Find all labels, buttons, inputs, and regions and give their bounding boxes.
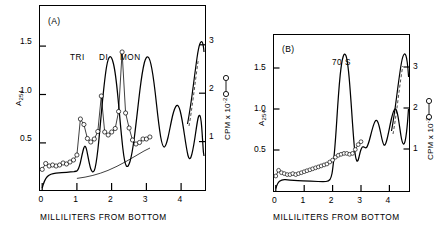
panel-a-annotation-tri: TRI [70, 53, 85, 62]
panel-b-ytick-right-label-2: 1 [413, 143, 418, 153]
panel-b-ytick-label-0: 1.5 [254, 62, 266, 72]
panel-a-xtick-label-1: 1 [73, 194, 78, 204]
panel-b-cpm-markers [274, 140, 363, 178]
panel-a-annotation-mon: MON [120, 53, 141, 62]
panel-b-ytick-label-1: 1.0 [254, 103, 266, 113]
panel-b-absorbance-trace-dashed-inner [393, 66, 403, 134]
panel-a-label: (A) [48, 16, 61, 26]
panel-b-absorbance-trace-secondary [392, 54, 409, 131]
panel-b-left-ticks [274, 68, 280, 150]
panel-a-plot-canvas [40, 6, 205, 190]
panel-b-annotation-70s: 70 S [332, 58, 351, 67]
panel-b: A254 CPM x 10-2 [232, 0, 445, 233]
panel-b-y-axis-right-title: CPM x 10-2 [425, 118, 435, 160]
panel-a-cpm-legend-marker-icon [219, 74, 233, 100]
panel-a-absorbance-trace-secondary [188, 42, 205, 124]
panel-a-ytick-label-0: 1.5 [20, 36, 32, 46]
panel-b-x-axis-title: MILLILITERS FROM BOTTOM [273, 212, 400, 222]
panel-a-baseline-trace [77, 148, 150, 178]
panel-b-xtick-label-1: 1 [300, 195, 305, 205]
panel-b-ytick-right-label-1: 2 [413, 102, 418, 112]
panel-b-cpm-trace [276, 141, 363, 176]
panel-a-absorbance-trace [42, 57, 204, 188]
panel-b-ytick-right-label-0: 3 [413, 61, 418, 71]
panel-a-plot-frame [39, 5, 206, 191]
panel-a-cpm-markers [40, 50, 152, 172]
panel-a: A254 CPM x 10-2 [0, 0, 232, 233]
panel-a-bottom-ticks [42, 183, 181, 190]
panel-b-xtick-label-3: 3 [357, 195, 362, 205]
panel-a-left-ticks [40, 46, 46, 143]
panel-a-ytick-right-label-0: 3 [209, 35, 214, 45]
panel-a-xtick-label-4: 4 [177, 194, 182, 204]
panel-a-cpm-trace [42, 52, 150, 169]
panel-a-y-axis-right-title: CPM x 10-2 [222, 98, 232, 140]
figure-sucrose-gradient-profiles: A254 CPM x 10-2 [0, 0, 445, 233]
panel-a-xtick-label-2: 2 [108, 194, 113, 204]
panel-b-cpm-legend-marker-icon [422, 97, 436, 123]
panel-a-xtick-label-0: 0 [39, 194, 44, 204]
panel-a-annotation-di: DI [99, 53, 108, 62]
panel-a-ytick-label-2: 0.5 [20, 133, 32, 143]
panel-a-ytick-right-label-1: 2 [209, 83, 214, 93]
panel-a-xtick-label-3: 3 [143, 194, 148, 204]
panel-b-ytick-label-2: 0.5 [254, 144, 266, 154]
panel-a-absorbance-trace-dashed-inner [189, 59, 198, 126]
panel-a-ytick-label-1: 1.0 [20, 85, 32, 95]
panel-a-ytick-right-label-2: 1 [209, 131, 214, 141]
panel-b-xtick-label-0: 0 [272, 195, 277, 205]
panel-b-xtick-label-4: 4 [386, 195, 391, 205]
panel-b-bottom-ticks [276, 185, 390, 191]
panel-b-label: (B) [282, 44, 295, 54]
panel-b-absorbance-trace [276, 54, 409, 188]
panel-a-x-axis-title: MILLILITERS FROM BOTTOM [40, 212, 167, 222]
panel-b-xtick-label-2: 2 [329, 195, 334, 205]
